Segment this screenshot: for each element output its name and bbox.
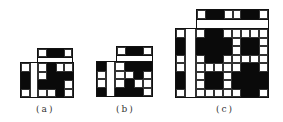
grid-cell <box>176 63 185 72</box>
grid-cell <box>134 88 143 97</box>
grid-cell <box>143 47 152 55</box>
grid-cell <box>259 89 268 98</box>
grid-cell <box>259 46 268 55</box>
grid-cell <box>143 79 152 88</box>
grid-cell <box>241 46 250 55</box>
grid-cell <box>47 72 56 81</box>
grid-cell <box>214 38 223 47</box>
grid-cell <box>176 72 185 81</box>
grid-cell <box>259 80 268 89</box>
grid-cell <box>56 80 65 89</box>
grid-cell <box>143 71 152 80</box>
grid-cell <box>259 38 268 47</box>
grid-cell <box>106 79 115 88</box>
grid-cell <box>196 46 205 55</box>
grid-cell <box>250 10 259 19</box>
grid-cell <box>232 89 241 98</box>
grid-cell <box>117 47 126 55</box>
grid-cell <box>106 71 115 80</box>
grid-cell <box>232 63 241 72</box>
grid-cell <box>232 72 241 81</box>
grid-cell <box>176 55 185 64</box>
grid-cell <box>135 47 144 55</box>
grid-cell <box>115 71 124 80</box>
grid-cell <box>56 72 65 81</box>
grid-cell <box>21 72 30 81</box>
grid-cell <box>97 71 106 80</box>
grid-cell <box>259 63 268 72</box>
grid-cell <box>64 63 73 72</box>
grid-cell <box>126 47 135 55</box>
grid-cell <box>241 72 250 81</box>
grid-cell <box>97 62 106 71</box>
grid-cell <box>250 55 259 64</box>
grid-cell <box>56 63 65 72</box>
grid-cell <box>197 10 206 19</box>
grid-cell <box>241 10 250 19</box>
grid-cell <box>64 72 73 81</box>
grid-cell <box>214 55 223 64</box>
grid-cell <box>185 46 196 55</box>
figure-a-caption: (a) <box>36 104 54 114</box>
grid-cell <box>196 80 205 89</box>
grid-cell <box>250 72 259 81</box>
grid-cell <box>241 38 250 47</box>
grid-cell <box>241 63 250 72</box>
figure-b-lower-grid <box>96 61 153 97</box>
grid-cell <box>38 89 47 98</box>
grid-cell <box>232 29 241 38</box>
grid-cell <box>21 89 30 98</box>
grid-cell <box>55 49 64 57</box>
grid-cell <box>56 89 65 98</box>
grid-cell <box>47 80 56 89</box>
grid-cell <box>115 88 124 97</box>
grid-cell <box>223 46 232 55</box>
grid-cell <box>232 38 241 47</box>
grid-cell <box>115 79 124 88</box>
grid-cell <box>259 72 268 81</box>
grid-cell <box>214 63 223 72</box>
grid-cell <box>205 80 214 89</box>
grid-cell <box>30 80 39 89</box>
grid-cell <box>196 63 205 72</box>
grid-cell <box>250 46 259 55</box>
grid-cell <box>30 89 39 98</box>
grid-cell <box>241 89 250 98</box>
grid-cell <box>134 71 143 80</box>
grid-cell <box>64 49 73 57</box>
grid-cell <box>64 89 73 98</box>
grid-cell <box>232 55 241 64</box>
grid-cell <box>241 80 250 89</box>
grid-cell <box>223 38 232 47</box>
grid-cell <box>185 29 196 38</box>
grid-cell <box>47 63 56 72</box>
grid-cell <box>206 10 215 19</box>
grid-cell <box>250 80 259 89</box>
grid-cell <box>241 29 250 38</box>
grid-cell <box>185 63 196 72</box>
grid-cell <box>176 80 185 89</box>
grid-cell <box>115 62 124 71</box>
grid-cell <box>259 55 268 64</box>
grid-cell <box>176 46 185 55</box>
grid-cell <box>196 38 205 47</box>
grid-cell <box>250 63 259 72</box>
grid-cell <box>215 10 224 19</box>
figure-b-caption: (b) <box>116 104 135 114</box>
grid-cell <box>185 38 196 47</box>
grid-cell <box>250 89 259 98</box>
grid-cell <box>176 89 185 98</box>
grid-cell <box>38 72 47 81</box>
grid-cell <box>97 79 106 88</box>
grid-cell <box>106 62 115 71</box>
figure-a-lower-grid <box>20 62 74 98</box>
grid-cell <box>233 10 242 19</box>
grid-cell <box>47 89 56 98</box>
grid-cell <box>38 49 47 57</box>
grid-cell <box>205 63 214 72</box>
grid-cell <box>259 29 268 38</box>
grid-cell <box>185 72 196 81</box>
grid-cell <box>196 89 205 98</box>
grid-cell <box>250 38 259 47</box>
grid-cell <box>205 38 214 47</box>
